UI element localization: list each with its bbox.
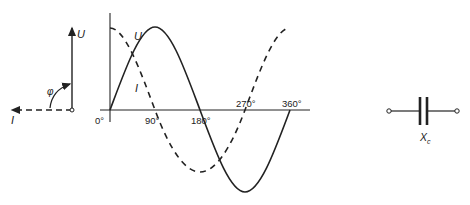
current-curve — [110, 28, 290, 172]
phase-angle-label: φ — [47, 86, 54, 97]
phasor-diagram: U I φ — [11, 28, 85, 126]
current-curve-label: I — [135, 82, 138, 94]
waveform-chart: U I 0° 90° 180° 270° 360° — [95, 13, 310, 192]
phasor-current-label: I — [11, 114, 14, 126]
phasor-voltage-label: U — [77, 28, 85, 40]
terminal-left — [387, 109, 391, 113]
capacitor-symbol: Xc — [387, 97, 459, 145]
capacitive-reactance-label: Xc — [419, 131, 431, 145]
tick-90: 90° — [145, 115, 160, 126]
tick-180: 180° — [191, 115, 211, 126]
terminal-right — [455, 109, 459, 113]
tick-0: 0° — [95, 115, 104, 126]
capacitive-circuit-diagram: U I φ U I 0° 90° 180° 270° 360° Xc — [0, 0, 470, 205]
phasor-origin — [70, 108, 74, 112]
voltage-curve-label: U — [134, 30, 142, 42]
tick-360: 360° — [282, 98, 302, 109]
tick-270: 270° — [236, 98, 256, 109]
